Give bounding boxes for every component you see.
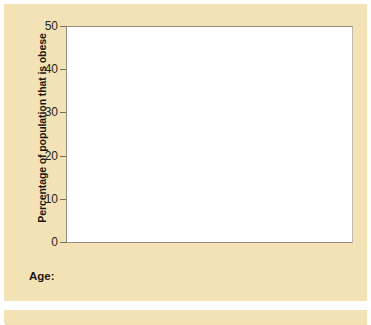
y-axis-tick-label: 0: [12, 235, 58, 249]
chart-figure: Percentage of population that is obese 5…: [0, 0, 371, 325]
y-axis-tick-label: 40: [12, 62, 58, 76]
legend-title: Age:: [29, 270, 55, 282]
y-axis-tick-value: 50: [18, 19, 58, 33]
bars-container: [67, 27, 352, 243]
y-axis-tick-label: 30: [12, 105, 58, 119]
y-axis-tick-label: 50: [12, 19, 58, 33]
plot-area: [66, 26, 353, 243]
x-axis-line: [66, 242, 352, 243]
y-axis-tick-value: 40: [18, 62, 58, 76]
page-gap: [0, 301, 371, 310]
y-axis-tick-value: 30: [18, 105, 58, 119]
chart-panel: Percentage of population that is obese 5…: [4, 4, 367, 301]
y-axis-tick-label: 20: [12, 149, 58, 163]
y-axis-tick-value: 20: [18, 149, 58, 163]
y-axis-tick-value: 10: [18, 192, 58, 206]
y-axis-tick-label: 10: [12, 192, 58, 206]
page-bottom-strip: [4, 310, 367, 323]
y-axis-tick-value: 0: [18, 235, 58, 249]
page-edge-right: [367, 0, 371, 325]
